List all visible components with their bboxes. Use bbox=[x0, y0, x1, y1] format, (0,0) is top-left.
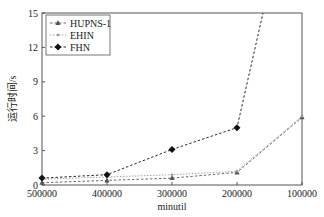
line-chart: 03691215500000400000300000200000100000 m… bbox=[0, 0, 324, 217]
dot-marker bbox=[236, 170, 239, 173]
legend-label: FHN bbox=[70, 42, 90, 53]
x-tick-label: 500000 bbox=[27, 188, 57, 199]
x-tick-label: 400000 bbox=[92, 188, 122, 199]
y-tick-label: 12 bbox=[28, 42, 38, 53]
y-tick-label: 9 bbox=[33, 76, 38, 87]
x-tick-label: 100000 bbox=[287, 188, 317, 199]
legend: HUPNS-1EHINFHN bbox=[46, 15, 111, 55]
x-tick-label: 200000 bbox=[222, 188, 252, 199]
y-tick-label: 15 bbox=[28, 8, 38, 19]
dot-marker bbox=[171, 173, 174, 176]
y-axis-title: 运行时间/s bbox=[6, 76, 18, 123]
dot-marker bbox=[57, 34, 60, 37]
legend-label: EHIN bbox=[70, 30, 94, 41]
diamond-marker bbox=[169, 146, 176, 153]
x-tick-label: 300000 bbox=[157, 188, 187, 199]
x-axis-title: minutil bbox=[158, 201, 187, 212]
y-tick-label: 6 bbox=[33, 111, 38, 122]
diamond-marker bbox=[234, 124, 241, 131]
diamond-marker bbox=[39, 175, 46, 182]
dot-marker bbox=[301, 115, 304, 118]
y-tick-label: 3 bbox=[33, 145, 38, 156]
legend-label: HUPNS-1 bbox=[70, 18, 111, 29]
